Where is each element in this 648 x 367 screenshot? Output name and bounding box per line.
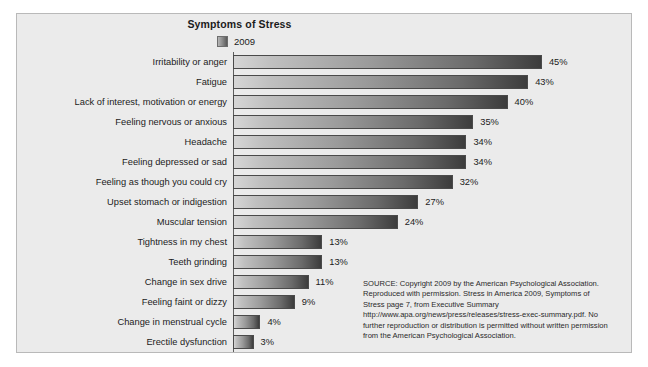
- legend-swatch-icon: [217, 36, 228, 47]
- chart-bar-row: Irritability or anger45%: [17, 52, 632, 72]
- bar-track: 43%: [233, 72, 623, 92]
- category-label: Headache: [17, 132, 227, 152]
- bar-value-label: 13%: [329, 252, 348, 272]
- category-label: Fatigue: [17, 72, 227, 92]
- chart-bar: [233, 75, 528, 89]
- bar-track: 34%: [233, 132, 623, 152]
- bar-track: 27%: [233, 192, 623, 212]
- page-title: Symptoms of Stress: [17, 18, 462, 30]
- category-label: Teeth grinding: [17, 252, 227, 272]
- chart-bar: [233, 95, 508, 109]
- chart-bar-row: Feeling nervous or anxious35%: [17, 112, 632, 132]
- chart-legend: 2009: [217, 36, 255, 47]
- category-label: Lack of interest, motivation or energy: [17, 92, 227, 112]
- chart-bar: [233, 235, 322, 249]
- chart-bar: [233, 295, 295, 309]
- category-label: Feeling nervous or anxious: [17, 112, 227, 132]
- chart-bar: [233, 215, 398, 229]
- chart-bar: [233, 275, 309, 289]
- bar-value-label: 40%: [515, 92, 534, 112]
- category-label: Feeling as though you could cry: [17, 172, 227, 192]
- chart-bar-row: Fatigue43%: [17, 72, 632, 92]
- chart-bar-row: Headache34%: [17, 132, 632, 152]
- bar-track: 45%: [233, 52, 623, 72]
- bar-track: 32%: [233, 172, 623, 192]
- bar-value-label: 9%: [302, 292, 315, 312]
- bar-value-label: 11%: [316, 272, 334, 292]
- chart-bar: [233, 315, 260, 329]
- bar-track: 13%: [233, 252, 623, 272]
- chart-bar: [233, 115, 473, 129]
- chart-bar: [233, 195, 418, 209]
- category-label: Tightness in my chest: [17, 232, 227, 252]
- chart-bar-row: Upset stomach or indigestion27%: [17, 192, 632, 212]
- bar-value-label: 3%: [261, 332, 274, 352]
- bar-track: 35%: [233, 112, 623, 132]
- bar-track: 13%: [233, 232, 623, 252]
- category-label: Irritability or anger: [17, 52, 227, 72]
- chart-bar-row: Muscular tension24%: [17, 212, 632, 232]
- category-label: Change in sex drive: [17, 272, 227, 292]
- bar-value-label: 32%: [460, 172, 479, 192]
- bar-track: 40%: [233, 92, 623, 112]
- bar-value-label: 35%: [480, 112, 499, 132]
- chart-bar: [233, 175, 453, 189]
- category-label: Upset stomach or indigestion: [17, 192, 227, 212]
- chart-bar-row: Feeling depressed or sad34%: [17, 152, 632, 172]
- bar-track: 24%: [233, 212, 623, 232]
- legend-item-label: 2009: [234, 36, 255, 47]
- chart-bar: [233, 155, 466, 169]
- chart-bar: [233, 335, 254, 349]
- bar-value-label: 45%: [549, 52, 568, 72]
- bar-value-label: 13%: [329, 232, 348, 252]
- chart-bar-row: Tightness in my chest13%: [17, 232, 632, 252]
- bar-track: 34%: [233, 152, 623, 172]
- bar-value-label: 34%: [473, 132, 492, 152]
- category-label: Change in menstrual cycle: [17, 312, 227, 332]
- chart-bar-row: Lack of interest, motivation or energy40…: [17, 92, 632, 112]
- category-label: Erectile dysfunction: [17, 332, 227, 352]
- bar-value-label: 34%: [473, 152, 492, 172]
- bar-value-label: 24%: [405, 212, 424, 232]
- chart-bar-row: Teeth grinding13%: [17, 252, 632, 272]
- category-label: Feeling depressed or sad: [17, 152, 227, 172]
- bar-value-label: 27%: [425, 192, 444, 212]
- chart-bar: [233, 55, 542, 69]
- source-note: SOURCE: Copyright 2009 by the American P…: [363, 279, 613, 341]
- bar-value-label: 43%: [535, 72, 554, 92]
- category-label: Feeling faint or dizzy: [17, 292, 227, 312]
- chart-figure: Symptoms of Stress 2009 Irritability or …: [16, 13, 632, 353]
- bar-value-label: 4%: [267, 312, 280, 332]
- chart-bar-row: Feeling as though you could cry32%: [17, 172, 632, 192]
- chart-bar: [233, 135, 466, 149]
- chart-bar: [233, 255, 322, 269]
- category-label: Muscular tension: [17, 212, 227, 232]
